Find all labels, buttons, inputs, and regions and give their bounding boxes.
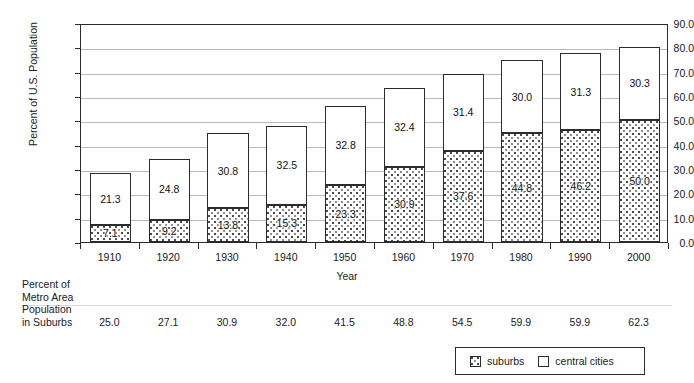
bar-segment-suburbs: 30.9 (384, 167, 425, 242)
bar-value-label: 37.6 (453, 190, 473, 202)
x-tick-label: 1990 (550, 251, 609, 263)
bar-value-label: 23.3 (335, 208, 355, 220)
bar-segment-central-cities: 31.4 (443, 74, 484, 150)
x-tick-mark (433, 243, 434, 249)
bar-segment-central-cities: 30.8 (207, 133, 248, 208)
bar-segment-suburbs: 13.8 (207, 208, 248, 242)
annotation-value: 48.8 (374, 316, 433, 328)
annotation-value: 62.3 (609, 316, 668, 328)
annotation-value: 30.9 (198, 316, 257, 328)
annotation-label-line: Metro Area (22, 291, 73, 304)
white-swatch-icon (538, 356, 549, 367)
bar-segment-central-cities: 31.3 (560, 53, 601, 129)
x-tick-label: 1910 (80, 251, 139, 263)
x-tick-mark (609, 243, 610, 249)
bar-value-label: 32.8 (335, 139, 355, 151)
annotation-value: 32.0 (256, 316, 315, 328)
bar-value-label: 32.5 (277, 159, 297, 171)
bar-value-label: 30.3 (629, 77, 649, 89)
x-tick-label: 2000 (609, 251, 668, 263)
x-tick-label: 1920 (139, 251, 198, 263)
annotation-label-line: Population (22, 303, 73, 316)
bar-value-label: 46.2 (571, 180, 591, 192)
legend-label-suburbs: suburbs (487, 355, 524, 367)
bar-value-label: 44.8 (512, 182, 532, 194)
bar-segment-central-cities: 30.3 (619, 47, 660, 121)
bar-stack: 31.437.6 (443, 74, 484, 242)
bar-segment-suburbs: 7.1 (90, 225, 131, 242)
bar-stack: 21.37.1 (90, 173, 131, 242)
x-tick-mark (198, 243, 199, 249)
annotation-value: 25.0 (80, 316, 139, 328)
x-tick-mark (492, 243, 493, 249)
bar-segment-suburbs: 23.3 (325, 185, 366, 242)
annotation-value: 59.9 (550, 316, 609, 328)
x-tick-mark (374, 243, 375, 249)
x-tick-label: 1960 (374, 251, 433, 263)
annotation-value: 27.1 (139, 316, 198, 328)
annotation-label: Percent ofMetro AreaPopulationin Suburbs (22, 278, 73, 328)
bar-segment-central-cities: 32.8 (325, 106, 366, 186)
x-tick-mark (256, 243, 257, 249)
y-axis-title: Percent of U.S. Population (27, 0, 39, 194)
bar-value-label: 30.0 (512, 91, 532, 103)
bar-stack: 31.346.2 (560, 53, 601, 242)
annotation-value: 54.5 (433, 316, 492, 328)
bar-value-label: 32.4 (394, 121, 414, 133)
x-tick-label: 1940 (256, 251, 315, 263)
x-tick-label: 1930 (198, 251, 257, 263)
bar-stack: 30.044.8 (501, 60, 542, 242)
bar-stack: 30.813.8 (207, 133, 248, 242)
bar-segment-central-cities: 30.0 (501, 60, 542, 133)
bar-segment-suburbs: 44.8 (501, 133, 542, 242)
stacked-bar-chart: Percent of U.S. Population 0.010.020.030… (0, 0, 694, 383)
plot-area: 21.37.124.89.230.813.832.515.332.823.332… (80, 24, 668, 243)
annotation-divider (22, 305, 672, 306)
legend-item-suburbs: suburbs (470, 355, 524, 367)
bar-segment-suburbs: 46.2 (560, 130, 601, 242)
bar-value-label: 21.3 (100, 193, 120, 205)
bar-segment-central-cities: 32.5 (266, 126, 307, 205)
bar-value-label: 7.1 (103, 227, 118, 239)
annotation-label-line: in Suburbs (22, 316, 73, 329)
bar-segment-central-cities: 32.4 (384, 88, 425, 167)
bar-value-label: 31.4 (453, 106, 473, 118)
bar-stack: 24.89.2 (149, 159, 190, 242)
x-tick-mark (80, 243, 81, 249)
bar-value-label: 30.8 (218, 165, 238, 177)
x-tick-label: 1980 (492, 251, 551, 263)
bar-segment-suburbs: 37.6 (443, 151, 484, 242)
bar-segment-central-cities: 21.3 (90, 173, 131, 225)
bar-value-label: 15.3 (277, 217, 297, 229)
annotation-value: 41.5 (315, 316, 374, 328)
bar-segment-suburbs: 50.0 (619, 120, 660, 242)
bar-segment-central-cities: 24.8 (149, 159, 190, 219)
bar-segment-suburbs: 9.2 (149, 220, 190, 242)
x-axis-title: Year (0, 270, 694, 282)
x-tick-label: 1970 (433, 251, 492, 263)
x-tick-mark (550, 243, 551, 249)
x-tick-label: 1950 (315, 251, 374, 263)
dotted-swatch-icon (470, 356, 481, 367)
legend-item-central-cities: central cities (538, 355, 613, 367)
bar-value-label: 30.9 (394, 198, 414, 210)
x-tick-mark (315, 243, 316, 249)
x-tick-mark (668, 243, 669, 249)
bar-value-label: 31.3 (571, 86, 591, 98)
annotation-label-line: Percent of (22, 278, 73, 291)
chart-legend: suburbs central cities (455, 347, 645, 375)
bar-stack: 32.430.9 (384, 88, 425, 242)
bar-value-label: 13.8 (218, 219, 238, 231)
bar-value-label: 24.8 (159, 183, 179, 195)
gridline (81, 49, 667, 50)
bar-stack: 32.823.3 (325, 106, 366, 243)
bar-value-label: 9.2 (162, 225, 177, 237)
bar-stack: 32.515.3 (266, 126, 307, 242)
bar-stack: 30.350.0 (619, 47, 660, 242)
bar-value-label: 50.0 (629, 175, 649, 187)
annotation-value: 59.9 (492, 316, 551, 328)
bar-segment-suburbs: 15.3 (266, 205, 307, 242)
x-tick-mark (139, 243, 140, 249)
legend-label-central-cities: central cities (555, 355, 613, 367)
